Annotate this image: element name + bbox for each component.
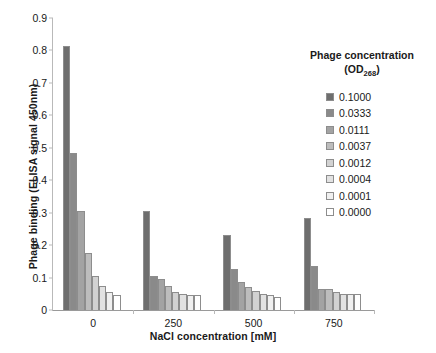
legend-items: 0.10000.03330.01110.00370.00120.00040.00… xyxy=(292,88,432,220)
bar xyxy=(238,282,245,310)
bar xyxy=(187,295,194,310)
legend-item-label: 0.0111 xyxy=(339,124,370,136)
legend-item[interactable]: 0.0111 xyxy=(326,121,432,138)
bar xyxy=(223,235,230,310)
legend-item[interactable]: 0.0001 xyxy=(326,187,432,204)
legend-item-label: 0.1000 xyxy=(339,91,371,103)
x-axis-tick-mark xyxy=(294,310,295,314)
y-axis-tick-mark xyxy=(49,277,53,278)
bar-group xyxy=(143,18,201,310)
bar xyxy=(245,287,252,310)
legend-swatch-icon xyxy=(326,93,334,101)
legend-title-od-suffix: ) xyxy=(376,63,380,75)
legend-title-od-prefix: (OD xyxy=(344,63,363,75)
bar xyxy=(252,291,259,310)
y-axis-tick-label: 0.8 xyxy=(32,44,47,56)
x-axis-tick-label: 0 xyxy=(90,317,96,329)
bar xyxy=(231,269,238,310)
x-axis-tick-mark xyxy=(214,310,215,314)
legend-item-label: 0.0037 xyxy=(339,140,371,152)
legend-swatch-icon xyxy=(326,126,334,134)
bar xyxy=(260,294,267,310)
legend-swatch-icon xyxy=(326,159,334,167)
legend-swatch-icon xyxy=(326,175,334,183)
y-axis-tick-label: 0.7 xyxy=(32,77,47,89)
bar xyxy=(77,211,84,310)
y-axis-tick-mark xyxy=(49,115,53,116)
y-axis-tick-mark xyxy=(49,82,53,83)
bar xyxy=(113,295,120,310)
legend-title-line1: Phage concentration xyxy=(310,49,414,61)
x-axis-tick-label: 500 xyxy=(245,317,263,329)
bar xyxy=(63,46,70,310)
y-axis-tick-mark xyxy=(49,245,53,246)
bar xyxy=(172,292,179,310)
chart-figure: Phage binding (ELISA signal 450nm) 00.10… xyxy=(0,0,436,353)
bar xyxy=(143,211,150,310)
bar xyxy=(325,289,332,310)
bar xyxy=(318,289,325,310)
x-axis-tick-label: 250 xyxy=(165,317,183,329)
bar xyxy=(70,153,77,310)
y-axis-tick-label: 0 xyxy=(41,304,47,316)
legend-item[interactable]: 0.0333 xyxy=(326,105,432,122)
y-axis-tick-mark xyxy=(49,180,53,181)
y-axis-tick-label: 0.5 xyxy=(32,142,47,154)
legend-item[interactable]: 0.0012 xyxy=(326,154,432,171)
bar xyxy=(158,279,165,310)
bar xyxy=(99,286,106,310)
bar xyxy=(333,292,340,310)
y-axis-tick-mark xyxy=(49,310,53,311)
bar xyxy=(179,294,186,310)
bar xyxy=(347,294,354,310)
legend-swatch-icon xyxy=(326,192,334,200)
y-axis-tick-label: 0.1 xyxy=(32,272,47,284)
y-axis-tick-mark xyxy=(49,212,53,213)
legend-title-od-subscript: 268 xyxy=(364,69,377,78)
bar xyxy=(311,266,318,310)
x-axis-tick-mark xyxy=(374,310,375,314)
bar xyxy=(304,218,311,310)
bar-group xyxy=(63,18,121,310)
y-axis-tick-label: 0.2 xyxy=(32,239,47,251)
y-axis-tick-label: 0.9 xyxy=(32,12,47,24)
legend-item-label: 0.0333 xyxy=(339,107,371,119)
legend-item[interactable]: 0.0000 xyxy=(326,204,432,221)
bar xyxy=(150,276,157,310)
legend-swatch-icon xyxy=(326,208,334,216)
bar xyxy=(85,253,92,310)
legend: Phage concentration (OD268) 0.10000.0333… xyxy=(292,48,432,220)
legend-item-label: 0.0012 xyxy=(339,157,371,169)
bar-group xyxy=(223,18,281,310)
bar xyxy=(274,297,281,310)
bar xyxy=(106,292,113,310)
x-axis-tick-label: 750 xyxy=(325,317,343,329)
bar xyxy=(354,294,361,310)
legend-title: Phage concentration (OD268) xyxy=(292,48,432,79)
x-axis-tick-mark xyxy=(133,310,134,314)
y-axis-tick-label: 0.4 xyxy=(32,174,47,186)
y-axis-tick-mark xyxy=(49,18,53,19)
legend-item[interactable]: 0.0037 xyxy=(326,138,432,155)
legend-swatch-icon xyxy=(326,109,334,117)
bar xyxy=(194,295,201,310)
y-axis-tick-label: 0.6 xyxy=(32,109,47,121)
y-axis-tick-mark xyxy=(49,50,53,51)
x-axis-title: NaCl concentration [mM] xyxy=(48,330,378,342)
y-axis-tick-label: 0.3 xyxy=(32,207,47,219)
legend-item[interactable]: 0.0004 xyxy=(326,171,432,188)
legend-item-label: 0.0000 xyxy=(339,206,371,218)
bar xyxy=(267,295,274,310)
y-axis-tick-mark xyxy=(49,147,53,148)
bar xyxy=(340,294,347,310)
bar xyxy=(92,276,99,310)
legend-item-label: 0.0004 xyxy=(339,173,371,185)
bar xyxy=(165,286,172,310)
legend-item-label: 0.0001 xyxy=(339,190,371,202)
legend-item[interactable]: 0.1000 xyxy=(326,88,432,105)
legend-swatch-icon xyxy=(326,142,334,150)
